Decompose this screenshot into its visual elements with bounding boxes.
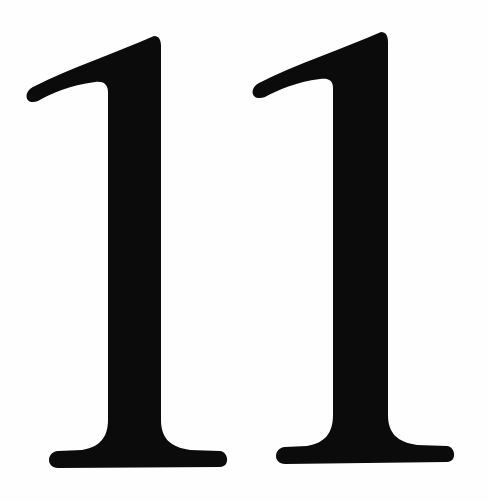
numeral-graphic — [0, 0, 489, 502]
digit-one-left — [27, 36, 228, 468]
numeral-image: 11 — [0, 0, 489, 502]
digit-one-right — [253, 32, 455, 464]
